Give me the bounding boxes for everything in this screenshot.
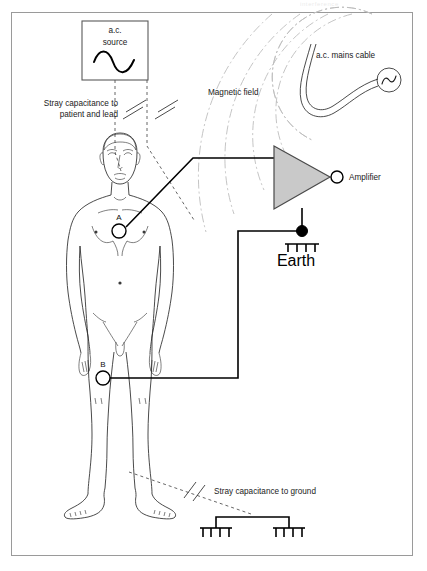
leg-right-outer: [148, 338, 152, 494]
stray-capacitance-ground-group: Stray capacitance to ground: [129, 472, 316, 537]
magnetic-field-arc-2: [276, 14, 352, 164]
stray-cap-patient-label-line1: Stray capacitance to: [44, 99, 119, 108]
hip-crease-left: [93, 313, 106, 322]
magnetic-field-label: Magnetic field: [208, 88, 259, 97]
earth-label: Earth: [277, 252, 315, 269]
nose: [118, 155, 122, 169]
leg-left-outer: [88, 338, 92, 494]
hip-crease-right: [134, 313, 147, 322]
toes-right: [154, 510, 170, 517]
electrode-a-label: A: [116, 213, 122, 222]
ac-source-label-line1: a.c.: [108, 26, 121, 35]
capacitor-slash-1a: [126, 100, 146, 112]
sternal-notch: [114, 197, 126, 200]
earth-junction-dot: [297, 226, 308, 237]
capacitor-slash-1b: [123, 107, 143, 119]
magnetic-field-arc-1: [272, 7, 372, 140]
magnetic-field-arc-1b: [272, 7, 372, 140]
page-root: interference .solid { stroke:#000; fill:…: [0, 0, 427, 571]
navel: [118, 281, 121, 284]
mains-sine-icon: [382, 76, 396, 84]
magnetic-field-arc-5: [198, 14, 272, 232]
stray-cap-patient-label-line2: patient and lead: [60, 110, 119, 119]
eyebrow-left: [107, 150, 117, 152]
eye-left: [108, 153, 116, 155]
electrode-b-label: B: [100, 360, 105, 369]
amplifier-output-terminal[interactable]: [331, 171, 343, 183]
electrode-b[interactable]: B: [96, 360, 110, 385]
wire-electrode-a-to-amplifier: [126, 158, 274, 227]
eyebrow-right: [123, 150, 133, 152]
ground-bus: [216, 517, 289, 528]
electrode-a-disc[interactable]: [112, 224, 126, 238]
capacitor-slash-3a: [184, 482, 196, 498]
capacitor-slash-2a: [158, 100, 178, 112]
pectoral-left: [92, 226, 113, 243]
torso-side-right: [152, 246, 160, 338]
interference-diagram: .solid { stroke:#000; fill:none; stroke-…: [0, 0, 427, 571]
nipple-right: [143, 231, 146, 234]
patient-body-figure: [64, 133, 175, 519]
mouth: [114, 174, 126, 176]
ribcage-right: [122, 241, 127, 256]
stray-cap-dash-left: [115, 80, 121, 171]
amplifier-label: Amplifier: [349, 173, 381, 182]
head-outline: [103, 133, 137, 184]
lead-wires: [110, 158, 302, 378]
capacitor-slash-3b: [193, 485, 205, 501]
amplifier-triangle[interactable]: [274, 146, 330, 209]
collarbone-left: [98, 210, 118, 213]
amplifier-symbol[interactable]: Amplifier: [274, 146, 381, 209]
eye-right: [124, 153, 132, 155]
torso-side-left: [80, 246, 88, 338]
stray-cap-ground-label: Stray capacitance to ground: [214, 487, 316, 496]
shoulder-left: [68, 195, 111, 240]
toes-left: [70, 510, 86, 517]
electrode-b-disc[interactable]: [96, 371, 110, 385]
ac-source-label-line2: source: [103, 38, 128, 47]
pectoral-right: [127, 226, 148, 243]
stray-capacitance-patient-lines: [115, 80, 194, 220]
ac-mains-cable-label: a.c. mains cable: [316, 51, 376, 60]
nipple-left: [95, 231, 98, 234]
chin-crease: [115, 178, 125, 180]
leg-right-inner: [126, 352, 136, 496]
electrode-a[interactable]: A: [112, 213, 126, 238]
knee-right: [139, 398, 146, 404]
arm-right-outer: [159, 240, 174, 353]
ribcage-left: [113, 241, 118, 256]
knee-left: [95, 398, 102, 404]
arm-left-outer: [67, 240, 82, 353]
capacitor-slash-2b: [155, 107, 175, 119]
wire-electrode-b-to-earth: [110, 231, 297, 378]
earth-symbol: Earth: [277, 226, 319, 270]
